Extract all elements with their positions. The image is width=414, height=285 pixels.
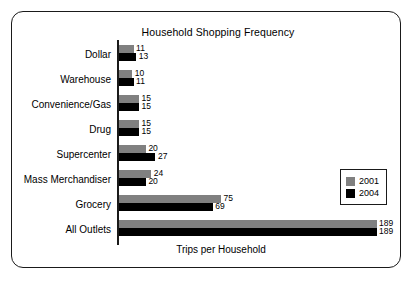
category-label: Convenience/Gas [0,96,111,113]
category-label: Drug [0,121,111,138]
category-label: Dollar [0,46,111,63]
bar-value-label: 11 [136,77,145,85]
bar-group: Dollar1113 [117,45,392,64]
bar-value-label: 69 [215,202,224,210]
bar [119,153,156,161]
bar-value-label: 15 [142,102,151,110]
chart-frame: Household Shopping Frequency Dollar1113W… [11,11,401,268]
bar-group: Drug1515 [117,120,392,139]
bar-row: 15 [119,103,151,111]
bar-group: All Outlets189189 [117,220,392,239]
bar [119,95,139,103]
bar-row: 20 [119,145,158,153]
plot-area: Dollar1113Warehouse1011Convenience/Gas15… [117,40,392,245]
bar-value-label: 15 [142,127,151,135]
legend-label: 2004 [359,187,379,199]
bar [119,45,134,53]
bar-row: 13 [119,53,149,61]
bar [119,228,377,236]
bar [119,203,213,211]
bar-group: Warehouse1011 [117,70,392,89]
bar [119,145,146,153]
category-label: Grocery [0,196,111,213]
category-label: Mass Merchandiser [0,171,111,188]
bar [119,70,133,78]
bar [119,103,139,111]
bar-group: Convenience/Gas1515 [117,95,392,114]
chart-legend: 20012004 [340,169,387,205]
bar-value-label: 27 [158,152,167,160]
category-label: Warehouse [0,71,111,88]
bar-row: 69 [119,203,225,211]
bar [119,78,134,86]
bar [119,128,139,136]
bar-value-label: 13 [139,52,148,60]
bar [119,53,137,61]
chart-title: Household Shopping Frequency [12,26,400,38]
legend-swatch [346,189,355,198]
bar-row: 15 [119,128,151,136]
bar-row: 27 [119,153,168,161]
bar [119,170,152,178]
bar-value-label: 20 [148,144,157,152]
category-label: Supercenter [0,146,111,163]
legend-entry: 2001 [346,175,379,187]
bar-row: 20 [119,178,158,186]
legend-swatch [346,177,355,186]
x-axis-label: Trips per Household [12,244,400,255]
legend-entry: 2004 [346,187,379,199]
legend-label: 2001 [359,175,379,187]
bar [119,195,221,203]
bar-row: 189 [119,228,394,236]
bar-row: 11 [119,78,145,86]
bar-value-label: 20 [148,177,157,185]
bar-group: Supercenter2027 [117,145,392,164]
bar-row: 189 [119,220,394,228]
bar [119,120,139,128]
bar-value-label: 189 [379,227,393,235]
bar [119,178,146,186]
category-label: All Outlets [0,221,111,238]
bar [119,220,377,228]
